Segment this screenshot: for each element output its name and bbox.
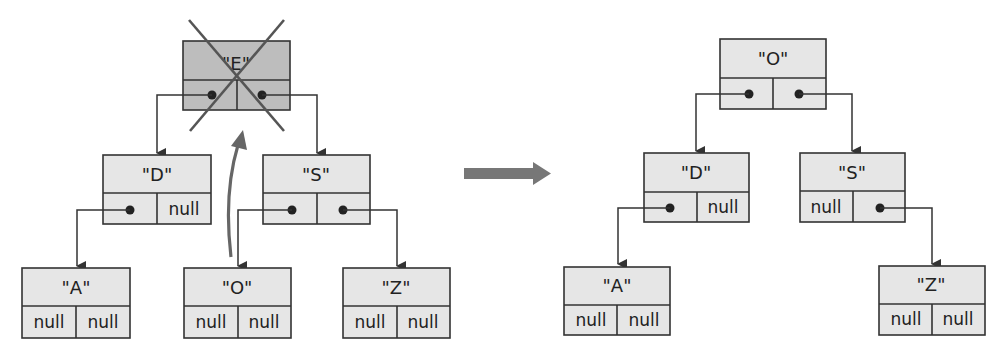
right-null: null [88, 312, 119, 332]
right-null: null [408, 312, 439, 332]
right-null: null [708, 197, 739, 217]
left-null: null [891, 309, 922, 329]
node-A: "A" null null [22, 268, 130, 338]
left-null: null [576, 310, 607, 330]
node-D: "D" null [103, 155, 211, 224]
transition-arrow-icon [464, 162, 551, 185]
node-Z: "Z" null null [343, 268, 450, 338]
node-S: "S" [263, 155, 370, 224]
node-label: "A" [603, 275, 632, 296]
node-label: "D" [142, 164, 172, 185]
left-null: null [811, 197, 842, 217]
node-O: "O" null null [184, 268, 291, 338]
node-label: "S" [838, 162, 866, 183]
node-A: "A" null null [564, 267, 670, 335]
node-label: "O" [222, 277, 253, 298]
node-O-root: "O" [720, 39, 826, 109]
node-label: "Z" [382, 277, 411, 298]
node-label: "Z" [917, 274, 946, 295]
left-null: null [34, 312, 65, 332]
left-null: null [196, 312, 227, 332]
before-tree: "E" "D" null "S" [22, 20, 450, 338]
node-S: "S" null [800, 153, 905, 222]
right-null: null [249, 312, 280, 332]
after-tree: "O" "D" null "S" null [564, 39, 985, 335]
right-null: null [629, 310, 660, 330]
left-null: null [355, 312, 386, 332]
right-null: null [943, 309, 974, 329]
node-label: "S" [302, 164, 330, 185]
bst-removal-diagram: "E" "D" null "S" [0, 0, 1004, 363]
node-label: "A" [62, 277, 91, 298]
right-null: null [169, 199, 200, 219]
node-label: "O" [758, 48, 789, 69]
node-label: "D" [681, 162, 711, 183]
node-D: "D" null [644, 153, 749, 222]
node-Z: "Z" null null [879, 266, 985, 335]
